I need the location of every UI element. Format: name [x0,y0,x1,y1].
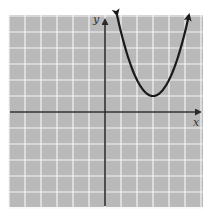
coordinate-graph: x y [0,0,212,215]
y-axis-label: y [92,13,100,26]
plot-background [9,15,203,207]
x-axis-label: x [193,116,200,129]
